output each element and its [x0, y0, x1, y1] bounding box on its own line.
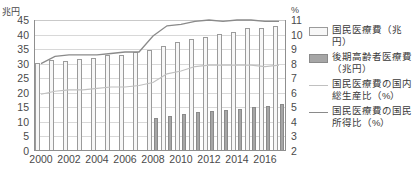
- y-axis-tick-label: 35: [3, 43, 29, 55]
- legend-item-line-gdp: 国民医療費の国内総生産比（%）: [309, 78, 416, 102]
- x-axis-tick-label: 2016: [253, 153, 276, 165]
- legend-item-bar-total: 国民医療費（兆円）: [309, 24, 416, 48]
- x-axis-tick-label: 2012: [197, 153, 220, 165]
- y-axis-tick-label: 25: [3, 72, 29, 84]
- legend-label: 国民医療費の国内総生産比（%）: [332, 78, 416, 102]
- legend-swatch-total: [309, 27, 328, 36]
- x-axis-tick-label: 2014: [225, 153, 248, 165]
- x-axis-tick-label: 2010: [169, 153, 192, 165]
- x-axis-tick-label: 2004: [85, 153, 108, 165]
- y-axis-tick-label: 10: [3, 116, 29, 128]
- legend-key: [309, 105, 329, 117]
- y-axis-line: [34, 20, 35, 151]
- legend-line-gdp-icon: [309, 81, 328, 90]
- line-gdp-ratio: [41, 65, 279, 94]
- legend-key: [309, 24, 329, 36]
- x-axis-tick-label: 2006: [113, 153, 136, 165]
- y-axis-tick-label: 20: [3, 87, 29, 99]
- plot-area: [34, 20, 286, 151]
- legend-label: 後期高齢者医療費（兆円）: [332, 51, 416, 75]
- y2-axis-line: [285, 20, 286, 151]
- y-axis-tick-label: 40: [3, 29, 29, 41]
- x-axis-tick-label: 2008: [141, 153, 164, 165]
- y-axis-tick-label: 45: [3, 14, 29, 26]
- x-axis-tick-label: 2002: [57, 153, 80, 165]
- y-axis-tick-label: 5: [3, 130, 29, 142]
- x-axis-line: [34, 150, 286, 151]
- chart-figure: 兆円 % 454035302520151050 111098765432 200…: [0, 0, 416, 180]
- chart-legend: 国民医療費（兆円）後期高齢者医療費（兆円）国民医療費の国内総生産比（%）国民医療…: [309, 24, 416, 132]
- y2-axis-tick-label: 3: [291, 130, 315, 142]
- y-axis-tick-label: 30: [3, 58, 29, 70]
- line-group: [34, 20, 286, 151]
- legend-label: 国民医療費（兆円）: [332, 24, 416, 48]
- x-axis-tick-label: 2000: [29, 153, 52, 165]
- legend-key: [309, 51, 329, 63]
- y2-axis-tick-label: 2: [291, 145, 315, 157]
- y-axis-tick-label: 15: [3, 101, 29, 113]
- legend-label: 国民医療費の国民所得比（%）: [332, 105, 416, 129]
- line-national-income-ratio: [41, 20, 279, 64]
- legend-line-income-icon: [309, 108, 328, 117]
- legend-item-line-income: 国民医療費の国民所得比（%）: [309, 105, 416, 129]
- legend-key: [309, 78, 329, 90]
- y-axis-tick-label: 0: [3, 145, 29, 157]
- legend-swatch-elderly: [309, 54, 328, 63]
- legend-item-bar-elderly: 後期高齢者医療費（兆円）: [309, 51, 416, 75]
